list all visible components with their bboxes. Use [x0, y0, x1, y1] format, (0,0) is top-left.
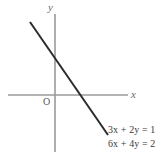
- equation-annotations: 3x + 2y = 1 6x + 4y = 2: [108, 124, 155, 149]
- x-axis-label: x: [131, 89, 136, 100]
- coordinate-plane-figure: y x O 3x + 2y = 1 6x + 4y = 2: [0, 0, 157, 160]
- y-axis-label: y: [48, 2, 53, 13]
- equation-label-first: 3x + 2y = 1: [108, 124, 155, 136]
- equation-label-second: 6x + 4y = 2: [108, 138, 155, 150]
- linear-equation-line: [30, 22, 108, 135]
- origin-label: O: [43, 97, 50, 107]
